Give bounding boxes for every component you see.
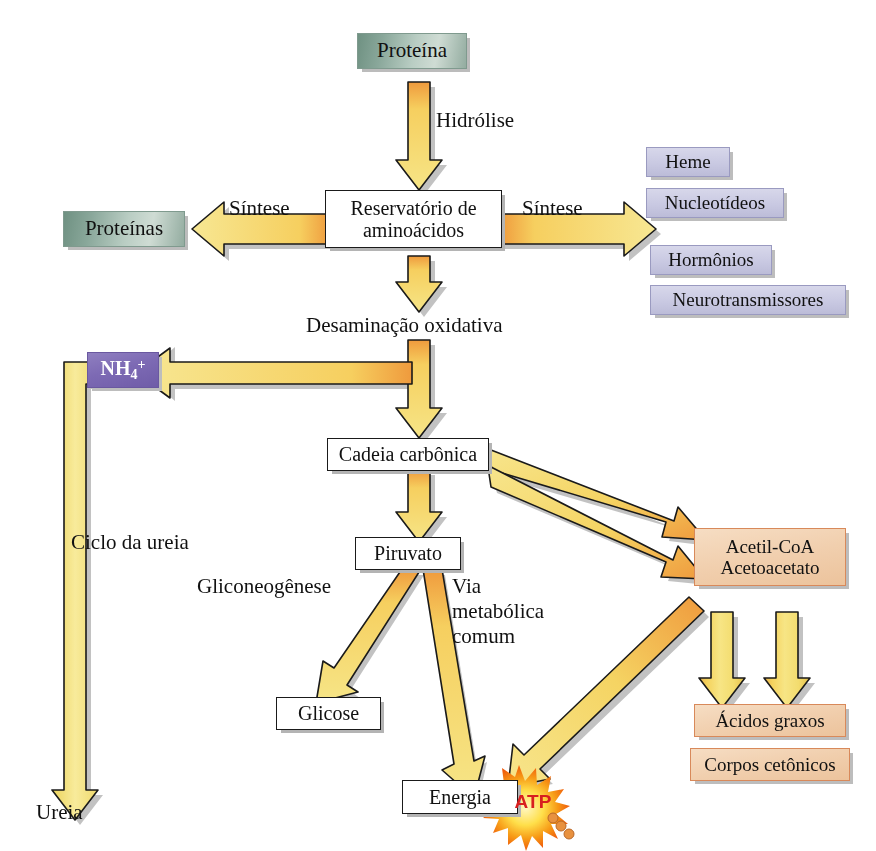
label-hidrolise: Hidrólise — [436, 108, 514, 133]
label-ureia: Ureia — [36, 800, 83, 825]
node-amonio[interactable]: NH4+ — [87, 352, 159, 388]
label-sintese-right: Síntese — [522, 196, 583, 221]
node-piruvato-label: Piruvato — [374, 542, 442, 564]
node-proteina[interactable]: Proteína — [357, 33, 467, 69]
label-gliconeogenese: Gliconeogênese — [197, 574, 331, 599]
node-neurotransmissores[interactable]: Neurotransmissores — [650, 285, 846, 315]
node-heme-label: Heme — [665, 151, 710, 172]
atp-label: ATP — [503, 791, 563, 813]
node-acetil-label-line2: Acetoacetato — [720, 557, 819, 578]
arrow-desaminacao-to-amonio — [136, 348, 412, 398]
node-proteinas[interactable]: Proteínas — [63, 211, 185, 247]
label-via-line3: comum — [452, 624, 572, 649]
node-nucleotideos-label: Nucleotídeos — [665, 192, 765, 213]
node-corpos-cetonicos[interactable]: Corpos cetônicos — [690, 748, 850, 781]
node-piruvato[interactable]: Piruvato — [355, 537, 461, 570]
node-acetil-coa-acetoacetato[interactable]: Acetil-CoA Acetoacetato — [694, 528, 846, 586]
node-energia-label: Energia — [429, 786, 491, 808]
node-heme[interactable]: Heme — [646, 147, 730, 177]
node-proteina-label: Proteína — [377, 39, 447, 63]
node-amonio-label: NH4+ — [101, 357, 146, 383]
arrow-reservatorio-to-desaminacao — [396, 256, 442, 312]
node-amonio-superscript: + — [138, 357, 146, 372]
arrow-amonio-to-ureia — [52, 362, 110, 820]
node-amonio-base: NH — [101, 357, 131, 379]
node-hormonios[interactable]: Hormônios — [650, 245, 772, 275]
node-reservatorio-label-line2: aminoácidos — [363, 219, 464, 241]
label-via-line1: Via — [452, 574, 572, 599]
node-cadeia-carbonica[interactable]: Cadeia carbônica — [327, 438, 489, 471]
node-glicose-label: Glicose — [298, 702, 359, 724]
label-ciclo-da-ureia: Ciclo da ureia — [71, 530, 189, 555]
node-proteinas-label: Proteínas — [85, 217, 163, 241]
metabolism-diagram: Proteína Proteínas Reservatório de amino… — [0, 0, 876, 851]
node-reservatorio-label-line1: Reservatório de — [350, 197, 476, 219]
node-acidos-graxos[interactable]: Ácidos graxos — [694, 704, 846, 737]
node-hormonios-label: Hormônios — [668, 249, 754, 270]
label-sintese-left: Síntese — [229, 196, 290, 221]
node-amonio-subscript: 4 — [131, 367, 138, 382]
node-cadeia-label: Cadeia carbônica — [339, 443, 477, 465]
node-neurotransmissores-label: Neurotransmissores — [673, 289, 824, 310]
node-reservatorio-aminoacidos[interactable]: Reservatório de aminoácidos — [325, 190, 502, 248]
node-nucleotideos[interactable]: Nucleotídeos — [646, 188, 784, 218]
label-via-metabolica-comum: Via metabólica comum — [452, 574, 572, 649]
node-acetil-label-line1: Acetil-CoA — [726, 536, 815, 557]
node-energia[interactable]: Energia — [402, 780, 518, 814]
node-glicose[interactable]: Glicose — [276, 697, 381, 730]
node-corpos-cetonicos-label: Corpos cetônicos — [704, 754, 835, 775]
arrow-piruvato-to-glicose — [316, 569, 421, 703]
label-via-line2: metabólica — [452, 599, 572, 624]
label-desaminacao-oxidativa: Desaminação oxidativa — [306, 313, 503, 338]
node-acidos-graxos-label: Ácidos graxos — [715, 710, 824, 731]
